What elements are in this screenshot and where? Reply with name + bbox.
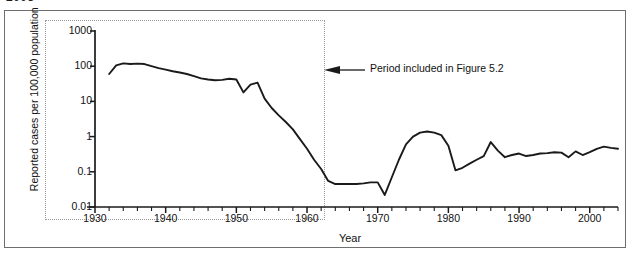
x-axis-title: Year (95, 232, 605, 244)
period-annotation-label: Period included in Figure 5.2 (370, 62, 504, 74)
chart-ticks (90, 31, 618, 213)
x-axis-tick-label: 1930 (73, 212, 117, 224)
x-axis-tick-label: 1970 (356, 212, 400, 224)
y-axis-title: Reported cases per 100,000 population (28, 4, 41, 194)
x-axis-tick-label: 2000 (568, 212, 612, 224)
y-axis-tick-label: 1 (52, 130, 92, 142)
y-axis-tick-label: 0.1 (52, 165, 92, 177)
annotation-arrow (324, 66, 365, 74)
figure-root: 2003 10001001010.10.01 19301940195019601… (0, 0, 630, 254)
chart-axes (87, 30, 618, 207)
x-axis-tick-label: 1950 (214, 212, 258, 224)
y-axis-tick-label: 10 (52, 94, 92, 106)
x-axis-tick-label: 1960 (285, 212, 329, 224)
y-axis-tick-label: 1000 (52, 24, 92, 36)
x-axis-tick-label: 1980 (426, 212, 470, 224)
chart-series (109, 63, 618, 195)
x-axis-tick-label: 1940 (144, 212, 188, 224)
x-axis-tick-label: 1990 (497, 212, 541, 224)
y-axis-tick-label: 100 (52, 59, 92, 71)
annotation-arrow-head (324, 66, 340, 74)
y-axis-tick-label: 0.01 (52, 200, 92, 212)
data-line-reported-cases (109, 63, 618, 195)
